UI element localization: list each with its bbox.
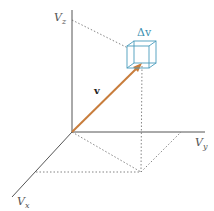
cube-edge <box>149 41 156 46</box>
vy-axis-label: Vy <box>195 136 208 151</box>
vector-label: v <box>93 85 101 96</box>
velocity-vector <box>72 63 142 132</box>
volume-element-label: Δv <box>137 26 152 39</box>
vx-axis-label: Vx <box>17 195 30 210</box>
guide-vz-to-cube <box>72 20 128 48</box>
vz-axis-label: Vz <box>54 11 67 26</box>
cube-back-face <box>134 41 156 63</box>
cube-front-face <box>127 46 149 68</box>
guide-floor-to-vy <box>141 132 181 172</box>
cube-edge <box>127 63 134 68</box>
guide-origin-to-floor <box>72 132 141 172</box>
velocity-space-diagram: Vz Vy Vx v Δv <box>0 0 214 211</box>
guide-cube-down <box>141 66 142 172</box>
vx-axis <box>12 132 72 197</box>
vector-shaft <box>72 68 137 132</box>
cube-edge <box>127 41 134 46</box>
axes <box>12 10 205 197</box>
cube-edge <box>149 63 156 68</box>
